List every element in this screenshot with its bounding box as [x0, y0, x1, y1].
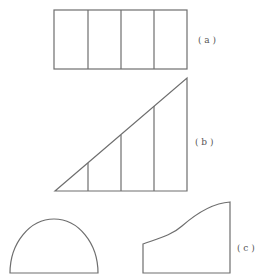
diagram-canvas: ( a ) ( b ) ( c ): [0, 0, 259, 276]
figure-a-rectangle: [54, 10, 187, 69]
semicircle-outline: [10, 219, 98, 273]
figure-a-label: ( a ): [198, 35, 216, 45]
figure-c-semicircle: [10, 219, 98, 273]
figure-c-curved-region: [143, 202, 230, 273]
figure-b-triangle: [55, 78, 187, 191]
curved-region-outline: [143, 202, 230, 273]
figure-b-label: ( b ): [195, 137, 214, 147]
figure-c-label: ( c ): [237, 243, 255, 253]
